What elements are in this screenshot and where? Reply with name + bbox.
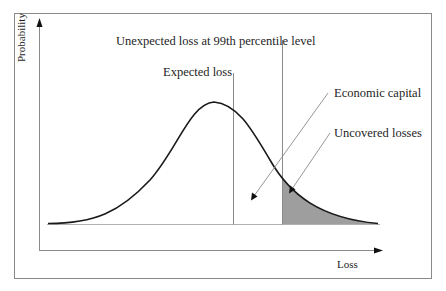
x-axis-arrow-icon	[374, 248, 383, 254]
x-axis-label: Loss	[337, 259, 358, 270]
uncovered-losses-label: Uncovered losses	[334, 127, 422, 140]
economic-capital-label: Economic capital	[334, 87, 421, 100]
y-axis-label: Probability	[15, 13, 27, 62]
loss-distribution-curve	[48, 102, 378, 224]
expected-loss-label: Expected loss	[163, 66, 232, 79]
y-axis-arrow-icon	[37, 18, 43, 27]
unexpected-loss-label: Unexpected loss at 99th percentile level	[116, 35, 316, 48]
uncovered-losses-pointer	[292, 133, 330, 189]
economic-capital-pointer	[254, 93, 328, 196]
uncovered-losses-area	[48, 102, 378, 225]
economic-capital-arrow-icon	[251, 193, 258, 201]
